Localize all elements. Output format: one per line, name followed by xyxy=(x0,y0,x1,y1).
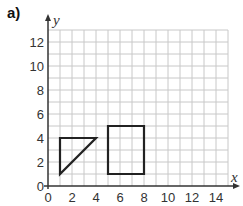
y-tick-label: 8 xyxy=(37,83,44,98)
x-tick-label: 14 xyxy=(209,190,223,205)
y-tick-label: 12 xyxy=(30,35,44,50)
x-tick-label: 6 xyxy=(116,190,123,205)
y-tick-label: 6 xyxy=(37,107,44,122)
x-tick-label: 4 xyxy=(92,190,99,205)
x-tick-label: 2 xyxy=(68,190,75,205)
x-tick-label: 0 xyxy=(44,190,51,205)
x-tick-label: 12 xyxy=(185,190,199,205)
y-tick-label: 4 xyxy=(37,131,44,146)
y-axis-label: y xyxy=(51,12,60,28)
y-tick-label: 2 xyxy=(37,155,44,170)
x-tick-label: 10 xyxy=(161,190,175,205)
x-axis-label: x xyxy=(230,169,238,185)
coordinate-grid: 02468101214024681012xy xyxy=(0,0,243,206)
triangle-shape xyxy=(60,138,96,174)
y-axis-arrow-icon xyxy=(45,14,51,21)
y-tick-label: 0 xyxy=(37,179,44,194)
y-tick-label: 10 xyxy=(30,59,44,74)
x-tick-label: 8 xyxy=(140,190,147,205)
